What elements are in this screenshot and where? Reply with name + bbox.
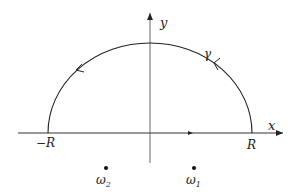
- arc-direction-arrow-right-icon: [214, 58, 220, 70]
- left-endpoint-label: −R: [36, 136, 55, 150]
- pole-omega2-label: ω2: [96, 173, 111, 189]
- pole-omega1-dot: [192, 166, 196, 170]
- contour-label-gamma: γ: [204, 47, 212, 61]
- pole-omega1-label: ω1: [186, 173, 201, 189]
- real-axis-direction-arrow-icon: [188, 131, 193, 135]
- contour-diagram: y x γ −R R ω2 ω1: [0, 0, 296, 193]
- y-axis-label: y: [159, 15, 168, 30]
- right-endpoint-label: R: [246, 138, 256, 152]
- pole-omega2-dot: [104, 166, 108, 170]
- x-axis-label: x: [268, 118, 276, 133]
